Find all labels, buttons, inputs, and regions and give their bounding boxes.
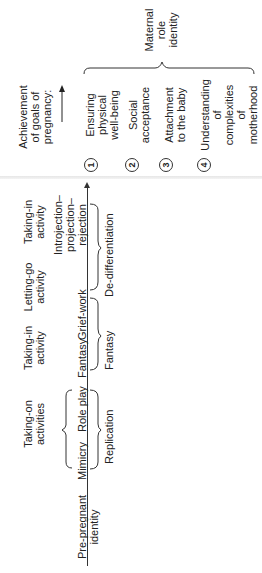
timeline-braces-icon — [0, 0, 262, 573]
